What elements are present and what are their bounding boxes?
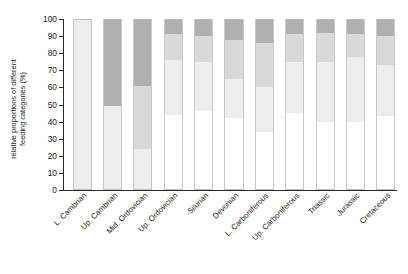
bar-segment-cat3 (224, 40, 243, 79)
bar-segment-cat1 (316, 122, 335, 190)
y-axis-tick-label: 80 (48, 48, 57, 58)
y-axis-tick-label: 70 (48, 65, 57, 75)
bar-segment-cat4 (103, 19, 122, 106)
x-axis-tick-label-text: Triassic (306, 191, 331, 216)
bar-segment-cat2 (376, 65, 395, 116)
bars-group (63, 19, 397, 190)
bar-l-carboniferous[interactable] (255, 19, 274, 190)
bar-segment-cat3 (316, 33, 335, 62)
bar-segment-cat1 (164, 115, 183, 190)
bar-segment-cat2 (346, 57, 365, 122)
bar-segment-cat3 (376, 36, 395, 65)
bar-segment-cat2 (73, 19, 92, 190)
bar-jurassic[interactable] (346, 19, 365, 190)
bar-segment-cat2 (164, 60, 183, 115)
x-axis-tick-label-text: Jurassic (335, 191, 362, 218)
stacked-bar-chart: relative proportions of different feedin… (0, 0, 408, 274)
bar-segment-cat4 (224, 19, 243, 40)
bar-segment-cat4 (346, 19, 365, 34)
bar-segment-cat3 (255, 43, 274, 87)
bar-segment-cat2 (316, 62, 335, 122)
x-axis-tick-label-devonian: Devonian (211, 191, 241, 221)
y-axis-tick-label: 40 (48, 117, 57, 127)
bar-segment-cat4 (316, 19, 335, 33)
bar-segment-cat1 (255, 132, 274, 190)
x-axis-tick-label-silurian: Silurian (185, 191, 210, 216)
bar-segment-cat4 (164, 19, 183, 34)
bar-segment-cat3 (346, 34, 365, 56)
plot-area: 0102030405060708090100 (63, 19, 397, 190)
y-axis-tick-label: 60 (48, 82, 57, 92)
bar-segment-cat4 (194, 19, 213, 36)
bar-segment-cat1 (346, 122, 365, 190)
bar-segment-cat1 (285, 113, 304, 190)
y-axis-title: relative proportions of different feedin… (0, 0, 34, 200)
y-axis-title-line-1: relative proportions of different (9, 59, 19, 159)
x-axis-tick-label-text: Cretaceous (358, 191, 393, 226)
bar-segment-cat2 (285, 62, 304, 113)
bar-silurian[interactable] (194, 19, 213, 190)
bar-segment-cat2 (194, 62, 213, 112)
bar-segment-cat2 (133, 149, 152, 190)
y-axis-tick-label: 100 (43, 14, 57, 24)
bar-segment-cat4 (133, 19, 152, 86)
x-axis-tick-label-jurassic: Jurassic (335, 191, 362, 218)
x-axis-tick-label-cretaceous: Cretaceous (358, 191, 393, 226)
bar-up-carboniferous[interactable] (285, 19, 304, 190)
bar-l-cambrian[interactable] (73, 19, 92, 190)
y-axis-tick-label: 0 (52, 185, 57, 195)
bar-segment-cat4 (376, 19, 395, 36)
x-axis-tick-label-triassic: Triassic (306, 191, 331, 216)
bar-cretaceous[interactable] (376, 19, 395, 190)
bar-segment-cat3 (133, 86, 152, 149)
bar-segment-cat3 (164, 34, 183, 60)
x-axis-tick-labels: L. CambrianUp. CambrianMid. OrdovicianUp… (63, 191, 408, 274)
bar-up-ordovician[interactable] (164, 19, 183, 190)
bar-up-cambrian[interactable] (103, 19, 122, 190)
bar-mid-ordovician[interactable] (133, 19, 152, 190)
y-axis-title-line-2: feeding categories (%) (18, 72, 28, 146)
bar-segment-cat1 (224, 118, 243, 190)
x-axis-tick-label-text: Silurian (185, 191, 210, 216)
y-axis-tick-label: 10 (48, 168, 57, 178)
bar-segment-cat1 (376, 116, 395, 190)
bar-segment-cat2 (224, 79, 243, 118)
y-axis-tick-label: 20 (48, 151, 57, 161)
y-axis-tick-label: 30 (48, 134, 57, 144)
x-axis-tick-label-text: Devonian (211, 191, 241, 221)
y-axis-tick-label: 90 (48, 31, 57, 41)
bar-segment-cat4 (255, 19, 274, 43)
bar-segment-cat2 (103, 106, 122, 190)
bar-segment-cat2 (255, 87, 274, 131)
bar-segment-cat3 (194, 36, 213, 62)
y-axis-tick-label: 50 (48, 100, 57, 110)
bar-segment-cat4 (285, 19, 304, 34)
bar-segment-cat1 (194, 111, 213, 190)
bar-triassic[interactable] (316, 19, 335, 190)
bar-devonian[interactable] (224, 19, 243, 190)
bar-segment-cat3 (285, 34, 304, 61)
